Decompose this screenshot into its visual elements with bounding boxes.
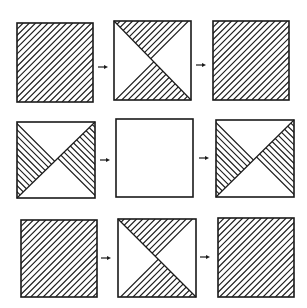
arrow-right-icon xyxy=(199,156,209,160)
pattern-matrix-diagram xyxy=(0,0,307,308)
arrow-right-icon xyxy=(200,255,210,259)
cell-0-2-full xyxy=(134,21,307,100)
cell-0-0-full xyxy=(0,23,246,102)
hatch-fill xyxy=(0,23,246,102)
hatch-fill xyxy=(134,21,307,100)
cell-2-0-full xyxy=(0,220,250,297)
arrow-right-icon xyxy=(98,65,108,69)
cell-border xyxy=(116,119,193,197)
arrow-right-icon xyxy=(100,158,110,162)
cell-1-1-empty xyxy=(116,119,193,197)
arrow-right-icon xyxy=(101,256,111,260)
hatch-fill xyxy=(0,220,250,297)
cell-1-0-left-right xyxy=(0,122,246,198)
hatch-fill xyxy=(0,122,246,198)
cell-1-2-left-right xyxy=(139,120,307,197)
arrow-right-icon xyxy=(196,63,206,67)
